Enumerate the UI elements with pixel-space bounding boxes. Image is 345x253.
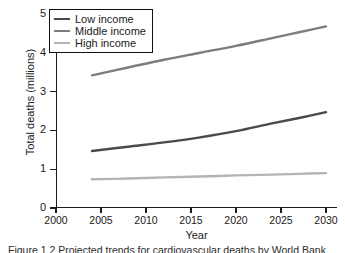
x-tick-label: 2020 [219, 215, 253, 226]
chart-legend: Low incomeMiddle incomeHigh income [49, 9, 153, 53]
y-tick-label: 2 [30, 124, 46, 135]
x-axis-label: Year [56, 229, 337, 241]
y-tick-label: 5 [30, 8, 46, 19]
x-tick-label: 2030 [309, 215, 343, 226]
y-tick-label: 0 [30, 202, 46, 213]
figure-caption: Figure 1.2 Projected trends for cardiova… [8, 244, 345, 253]
legend-label: High income [75, 37, 136, 49]
y-tick-label: 4 [30, 47, 46, 58]
x-tick-label: 2005 [84, 215, 118, 226]
series-line-high-income [92, 173, 326, 179]
x-tick-mark [190, 208, 191, 213]
series-line-low-income [92, 112, 326, 151]
x-tick-label: 2010 [129, 215, 163, 226]
legend-label: Middle income [75, 25, 146, 37]
x-tick-mark [145, 208, 146, 213]
x-tick-label: 2000 [39, 215, 73, 226]
x-tick-mark [325, 208, 326, 213]
x-tick-label: 2025 [264, 215, 298, 226]
legend-item-high-income: High income [54, 37, 146, 49]
y-tick-label: 3 [30, 86, 46, 97]
x-tick-mark [235, 208, 236, 213]
x-tick-mark [100, 208, 101, 213]
x-tick-mark [280, 208, 281, 213]
y-tick-label: 1 [30, 163, 46, 174]
legend-swatch-icon [54, 30, 70, 33]
x-tick-mark [55, 208, 56, 213]
x-tick-label: 2015 [174, 215, 208, 226]
legend-item-middle-income: Middle income [54, 25, 146, 37]
legend-swatch-icon [54, 42, 70, 45]
legend-item-low-income: Low income [54, 13, 146, 25]
figure-container: Total deaths (millions) 012345 200020052… [0, 0, 345, 253]
legend-label: Low income [75, 13, 134, 25]
legend-swatch-icon [54, 18, 70, 21]
